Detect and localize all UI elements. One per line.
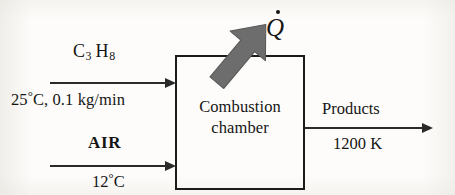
fuel-arrow-head xyxy=(165,78,176,88)
fuel-temperature-value: 25 xyxy=(11,90,28,109)
fuel-arrow-shaft xyxy=(50,82,166,84)
fuel-inlet-arrow xyxy=(50,81,176,84)
products-stream-label: Products xyxy=(322,101,380,118)
products-arrow-shaft xyxy=(305,127,423,129)
chamber-label-line-2: chamber xyxy=(176,117,304,138)
air-state-label: 12°C xyxy=(92,172,125,191)
products-arrow-head xyxy=(422,123,433,133)
fuel-state-remainder: C, 0.1 kg/min xyxy=(33,90,125,109)
air-arrow-shaft xyxy=(50,165,166,167)
fuel-formula-c: C xyxy=(73,41,86,61)
air-arrow-head xyxy=(165,161,176,171)
fuel-formula-sub-8: 8 xyxy=(109,49,115,63)
chamber-label-line-1: Combustion xyxy=(176,96,304,117)
combustion-chamber-label: Combustion chamber xyxy=(176,96,304,138)
fuel-formula-label: C3H8 xyxy=(73,42,115,63)
heat-symbol-letter: Q xyxy=(266,15,284,40)
products-temperature-label: 1200 K xyxy=(333,136,382,153)
air-stream-label: AIR xyxy=(88,134,121,151)
fuel-formula-h: H xyxy=(96,41,110,61)
fuel-formula-sub-3: 3 xyxy=(86,49,92,63)
air-state-remainder: C xyxy=(114,172,125,191)
air-inlet-arrow xyxy=(50,164,176,167)
fuel-state-label: 25°C, 0.1 kg/min xyxy=(11,90,125,109)
heat-transfer-rate-symbol: Q xyxy=(266,6,300,46)
products-outlet-arrow xyxy=(305,126,433,129)
air-temperature-value: 12 xyxy=(92,172,109,191)
combustion-chamber-diagram: Combustion chamber C3H8 25°C, 0.1 kg/min… xyxy=(0,0,455,195)
